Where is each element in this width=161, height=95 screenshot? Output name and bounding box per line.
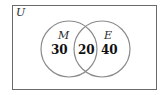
intersection-value: 20: [78, 43, 95, 57]
set-e-label: E: [103, 29, 112, 42]
venn-diagram: U M E 30 20 40: [0, 0, 161, 95]
m-only-value: 30: [51, 43, 68, 57]
e-only-value: 40: [101, 43, 118, 57]
universe-label: U: [16, 6, 26, 19]
set-m-label: M: [57, 29, 70, 42]
